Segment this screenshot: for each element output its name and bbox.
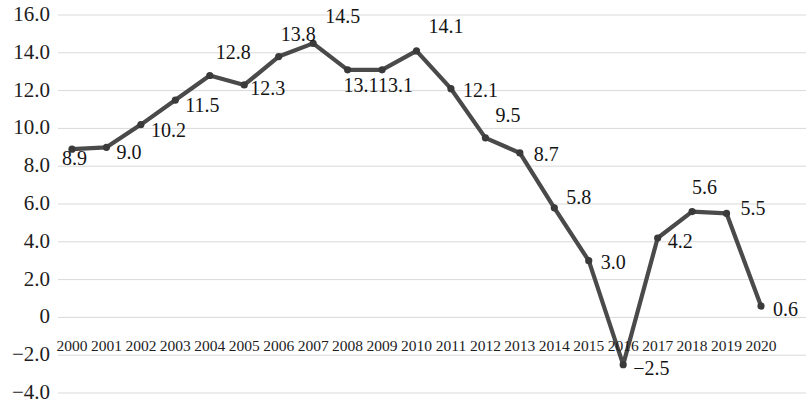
- y-axis-tick-label: −4.0: [0, 380, 50, 405]
- data-point-marker: [620, 361, 627, 368]
- y-axis-tick-label: 0: [0, 304, 50, 329]
- data-point-label: 4.2: [668, 230, 693, 253]
- data-point-label: 13.1: [378, 74, 413, 97]
- data-point-label: 13.8: [281, 23, 316, 46]
- data-point-marker: [137, 121, 144, 128]
- y-axis-tick-label: 4.0: [0, 229, 50, 254]
- y-axis-tick-label: 12.0: [0, 78, 50, 103]
- y-axis-tick-label: −2.0: [0, 342, 50, 367]
- data-point-label: 0.6: [773, 298, 798, 321]
- data-point-label: 5.6: [692, 176, 717, 199]
- data-point-marker: [551, 204, 558, 211]
- data-point-label: 5.8: [566, 186, 591, 209]
- data-point-marker: [516, 149, 523, 156]
- data-point-label: 11.5: [185, 94, 219, 117]
- y-axis-tick-label: 2.0: [0, 267, 50, 292]
- data-point-marker: [482, 134, 489, 141]
- data-point-marker: [689, 208, 696, 215]
- data-point-marker: [275, 53, 282, 60]
- y-axis-tick-label: 6.0: [0, 191, 50, 216]
- data-point-marker: [206, 72, 213, 79]
- data-point-label: 3.0: [601, 251, 626, 274]
- data-point-label: 13.1: [344, 74, 379, 97]
- data-point-label: 14.5: [325, 5, 360, 28]
- x-axis-tick-label: 2020: [740, 337, 782, 355]
- data-point-marker: [447, 85, 454, 92]
- data-point-label: −2.5: [633, 357, 669, 380]
- data-point-label: 8.7: [534, 143, 559, 166]
- data-point-marker: [723, 210, 730, 217]
- data-point-label: 12.1: [463, 79, 498, 102]
- data-point-marker: [585, 257, 592, 264]
- data-point-label: 10.2: [151, 119, 186, 142]
- line-chart: 16.014.012.010.08.06.04.02.00−2.0−4.0 20…: [0, 0, 810, 411]
- data-point-label: 9.0: [116, 141, 141, 164]
- data-point-marker: [103, 144, 110, 151]
- data-point-marker: [172, 96, 179, 103]
- y-axis-tick-label: 16.0: [0, 2, 50, 27]
- data-point-marker: [654, 234, 661, 241]
- data-point-marker: [241, 81, 248, 88]
- data-point-label: 8.9: [62, 147, 87, 170]
- y-axis-tick-label: 8.0: [0, 153, 50, 178]
- data-point-label: 12.8: [216, 41, 251, 64]
- data-point-label: 5.5: [741, 197, 766, 220]
- data-point-label: 14.1: [429, 15, 464, 38]
- data-point-marker: [757, 302, 764, 309]
- data-point-marker: [378, 66, 385, 73]
- data-point-marker: [344, 66, 351, 73]
- y-axis-tick-label: 10.0: [0, 115, 50, 140]
- data-point-label: 9.5: [495, 104, 520, 127]
- data-point-marker: [413, 47, 420, 54]
- data-point-label: 12.3: [250, 77, 285, 100]
- y-axis-tick-label: 14.0: [0, 40, 50, 65]
